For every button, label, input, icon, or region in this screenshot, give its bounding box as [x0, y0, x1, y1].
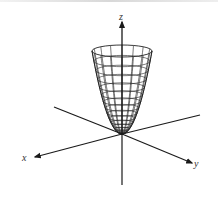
y-axis-line	[122, 134, 192, 163]
paraboloid-diagram: z x y	[0, 0, 218, 207]
x-axis-label: x	[21, 152, 27, 163]
z-axis-label: z	[118, 11, 123, 22]
x-axis-line	[35, 134, 122, 157]
y-axis-label: y	[193, 158, 199, 169]
